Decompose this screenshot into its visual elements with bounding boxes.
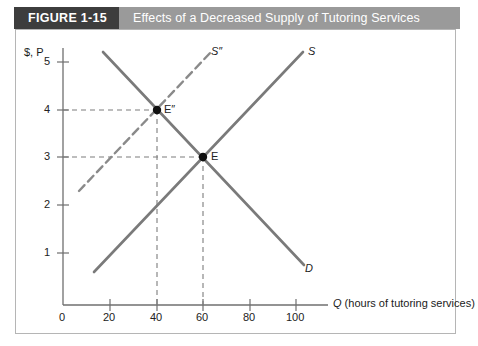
x-tick-label-40: 40 <box>150 311 162 323</box>
y-tick-label-1: 1 <box>44 246 50 258</box>
x-tick-label-0: 0 <box>59 311 65 323</box>
x-axis-title-text: (hours of tutoring services) <box>342 297 475 309</box>
x-tick-label-20: 20 <box>103 311 115 323</box>
figure-header-bar: FIGURE 1-15 Effects of a Decreased Suppl… <box>14 7 460 29</box>
equilibrium-new-label: E″ <box>164 103 175 115</box>
figure-number: FIGURE 1-15 <box>14 7 119 29</box>
x-axis-title-symbol: Q <box>333 297 342 309</box>
supply-shifted-label: S″ <box>211 45 222 57</box>
y-tick-label-2: 2 <box>44 198 50 210</box>
y-tick-label-5: 5 <box>44 55 50 67</box>
demand-label: D <box>305 262 313 274</box>
y-tick-label-4: 4 <box>44 103 50 115</box>
x-tick-label-60: 60 <box>196 311 208 323</box>
y-tick-label-3: 3 <box>44 150 50 162</box>
figure-title: Effects of a Decreased Supply of Tutorin… <box>119 11 420 25</box>
x-tick-label-100: 100 <box>286 311 304 323</box>
y-axis-title: $, P <box>24 46 44 58</box>
x-axis-title: Q (hours of tutoring services) <box>333 297 475 309</box>
figure-container: FIGURE 1-15 Effects of a Decreased Suppl… <box>0 0 478 346</box>
x-tick-label-80: 80 <box>243 311 255 323</box>
equilibrium-original-label: E <box>211 150 218 162</box>
supply-label: S <box>308 45 315 57</box>
plot-frame <box>15 29 456 334</box>
